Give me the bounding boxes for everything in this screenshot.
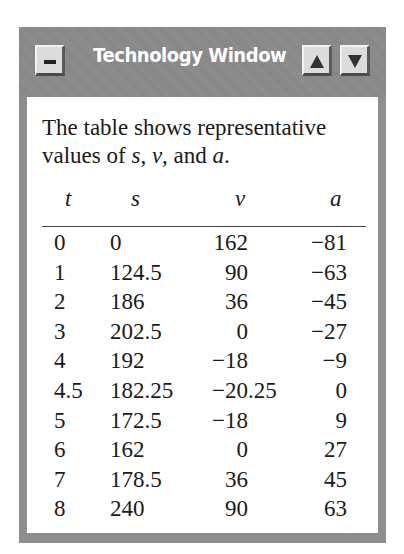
- cell-t: 7: [54, 467, 66, 493]
- cell-s: 192: [110, 348, 145, 374]
- cell-t: 2: [54, 289, 66, 315]
- cell-a: 0: [336, 378, 348, 404]
- table-row: 3202.50−27: [27, 319, 378, 348]
- table-row: 218636−45: [27, 289, 378, 318]
- cell-s: 172.5: [110, 408, 162, 434]
- window-content: The table shows representative values of…: [27, 97, 378, 533]
- intro-text-part: , and: [162, 143, 212, 168]
- column-header-a: a: [330, 186, 342, 212]
- cell-s: 178.5: [110, 467, 162, 493]
- variable-v: v: [152, 143, 162, 168]
- cell-v: 90: [225, 260, 248, 286]
- cell-v: 0: [237, 319, 249, 345]
- window-title: Technology Window: [93, 43, 260, 67]
- cell-a: −27: [311, 319, 347, 345]
- column-header-t: t: [65, 186, 71, 212]
- cell-s: 186: [110, 289, 145, 315]
- table-row: 5172.5−189: [27, 408, 378, 437]
- table-row: 82409063: [27, 496, 378, 525]
- cell-t: 0: [54, 230, 66, 256]
- cell-a: −81: [311, 230, 347, 256]
- table-row: 4.5182.25−20.250: [27, 378, 378, 407]
- cell-t: 4: [54, 348, 66, 374]
- table-row: 1124.590−63: [27, 260, 378, 289]
- cell-a: −45: [311, 289, 347, 315]
- cell-v: 162: [214, 230, 249, 256]
- table-row: 7178.53645: [27, 467, 378, 496]
- cell-t: 3: [54, 319, 66, 345]
- title-bar: Technology Window: [19, 27, 386, 97]
- cell-s: 182.25: [110, 378, 173, 404]
- cell-a: 45: [324, 467, 347, 493]
- cell-a: 63: [324, 496, 347, 522]
- cell-v: −18: [212, 408, 248, 434]
- cell-s: 202.5: [110, 319, 162, 345]
- cell-t: 8: [54, 496, 66, 522]
- cell-v: 0: [237, 437, 249, 463]
- table-row: 00162−81: [27, 230, 378, 259]
- cell-a: 27: [324, 437, 347, 463]
- header-rule: [42, 226, 366, 227]
- table-row: 6162027: [27, 437, 378, 466]
- cell-v: 36: [225, 289, 248, 315]
- intro-text: The table shows representative values of…: [42, 114, 377, 170]
- minimize-button[interactable]: [35, 45, 65, 76]
- column-header-s: s: [131, 186, 140, 212]
- cell-a: −9: [323, 348, 347, 374]
- cell-v: −18: [212, 348, 248, 374]
- cell-v: 36: [225, 467, 248, 493]
- cell-s: 0: [110, 230, 122, 256]
- cell-t: 4.5: [54, 378, 83, 404]
- table-row: 4192−18−9: [27, 348, 378, 377]
- cell-s: 162: [110, 437, 145, 463]
- cell-v-fraction: .25: [248, 378, 277, 404]
- scroll-down-button[interactable]: [340, 45, 370, 76]
- column-header-v: v: [235, 186, 245, 212]
- cell-a: −63: [311, 260, 347, 286]
- intro-text-part: ,: [140, 143, 152, 168]
- cell-s: 240: [110, 496, 145, 522]
- cell-v: 90: [225, 496, 248, 522]
- triangle-down-icon: [348, 55, 362, 68]
- triangle-up-icon: [310, 55, 324, 68]
- cell-t: 1: [54, 260, 66, 286]
- variable-a: a: [213, 143, 225, 168]
- cell-t: 5: [54, 408, 66, 434]
- cell-t: 6: [54, 437, 66, 463]
- cell-s: 124.5: [110, 260, 162, 286]
- technology-window: Technology Window The table shows repres…: [19, 27, 386, 543]
- minus-icon: [44, 60, 56, 64]
- cell-a: 9: [336, 408, 348, 434]
- cell-v: −20: [212, 378, 248, 404]
- intro-text-part: .: [224, 143, 230, 168]
- scroll-up-button[interactable]: [302, 45, 332, 76]
